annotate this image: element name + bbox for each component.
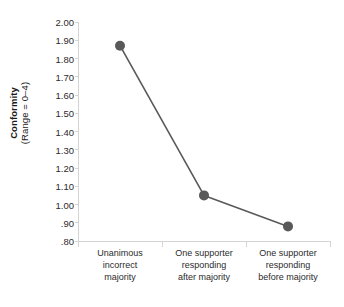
x-category-label-line: majority — [104, 271, 136, 283]
series-markers: Unanimous incorrect majority: 1.87One su… — [115, 41, 293, 232]
x-category-label: Unanimousincorrectmajority — [78, 247, 162, 305]
x-axis-category-labels: UnanimousincorrectmajorityOne supporterr… — [78, 247, 330, 305]
chart-figure: Conformity (Range = 0–4) 2.001.901.801.7… — [0, 0, 344, 307]
x-category-label-line: One supporter — [259, 247, 317, 259]
x-category-label-line: One supporter — [175, 247, 233, 259]
x-category-label-line: responding — [266, 259, 311, 271]
x-category-label-line: responding — [182, 259, 227, 271]
data-point-marker: One supporter responding before majority… — [283, 221, 293, 231]
x-category-label: One supporterrespondingbefore majority — [246, 247, 330, 305]
axis-lines — [78, 22, 330, 241]
x-category-label-line: after majority — [178, 271, 230, 283]
x-category-label: One supporterrespondingafter majority — [162, 247, 246, 305]
data-point-marker: Unanimous incorrect majority: 1.87 — [115, 41, 125, 51]
x-category-label-line: Unanimous — [97, 247, 143, 259]
x-category-label-line: before majority — [258, 271, 318, 283]
axis-ticks — [75, 22, 330, 247]
data-point-marker: One supporter responding after majority:… — [199, 190, 209, 200]
x-category-label-line: incorrect — [103, 259, 138, 271]
